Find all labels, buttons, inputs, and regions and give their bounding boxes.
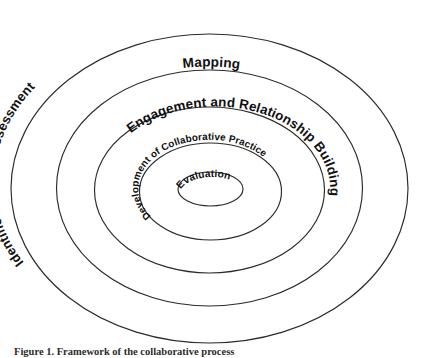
figure-caption: Figure 1. Framework of the collaborative… [14,347,234,357]
ring-label-identification-and-assessment: Identification and Assessment [0,79,38,270]
concentric-ellipse-diagram: Identification and Assessment Mapping En… [0,0,426,358]
ring-label-mapping: Mapping [182,54,241,71]
ring-outline-4 [140,143,282,240]
figure-caption-band: Figure 1. Framework of the collaborative… [0,347,426,358]
ring-outline-1 [11,34,408,343]
ring-label-evaluation: Evaluation [174,168,232,191]
figure-container: Identification and Assessment Mapping En… [0,0,426,358]
